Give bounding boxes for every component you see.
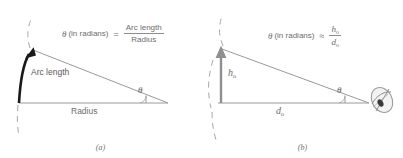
radius-label: Radius: [71, 107, 97, 116]
panel-a: θ (in radians) = Arc length Radius Arc l…: [0, 0, 201, 158]
caption-a: (a): [0, 143, 201, 152]
formula-fraction: Arc length Radius: [124, 23, 164, 44]
dashed-arc-middle-icon: [209, 60, 213, 108]
arc-length-curve: [19, 54, 29, 103]
formula-qualifier: (in radians): [274, 31, 314, 40]
formula-numerator: Arc length: [124, 23, 164, 34]
distance-label: do: [276, 106, 284, 116]
caption-b: (b): [202, 143, 403, 152]
arc-arrow-head-icon: [25, 47, 36, 58]
formula-numerator-sub: o: [336, 29, 339, 35]
dashed-arc-lower-icon: [17, 105, 19, 137]
distance-label-sub: o: [281, 110, 284, 117]
formula-a: θ (in radians) = Arc length Radius: [62, 23, 164, 44]
angle-label-a: θ: [138, 86, 142, 95]
eye-icon: [367, 84, 397, 116]
formula-fraction: ho do: [329, 24, 340, 48]
formula-relation: =: [108, 29, 123, 39]
formula-denominator: do: [329, 36, 340, 47]
formula-denominator-sub: o: [336, 42, 339, 48]
angle-arc-icon: [339, 96, 345, 103]
formula-qualifier: (in radians): [68, 29, 108, 38]
formula-denominator: Radius: [129, 34, 158, 44]
height-label: ho: [228, 68, 236, 78]
formula-numerator: ho: [329, 24, 340, 36]
angle-arc-icon: [140, 96, 146, 103]
height-label-sub: o: [233, 72, 236, 79]
height-arrow-head-icon: [216, 46, 227, 59]
formula-b: θ (in radians) ≈ ho do: [268, 24, 341, 48]
dashed-arc-lower-icon: [212, 112, 216, 140]
radian-angle-figure: θ (in radians) = Arc length Radius Arc l…: [0, 0, 403, 158]
formula-relation: ≈: [314, 31, 329, 41]
angle-label-b: θ: [337, 86, 341, 95]
dashed-arc-upper-icon: [219, 16, 223, 46]
arc-length-label: Arc length: [31, 68, 69, 77]
panel-b: θ (in radians) ≈ ho do ho do θ (b): [202, 0, 403, 158]
dashed-arc-upper-icon: [28, 19, 31, 48]
hypotenuse-line: [222, 49, 369, 103]
